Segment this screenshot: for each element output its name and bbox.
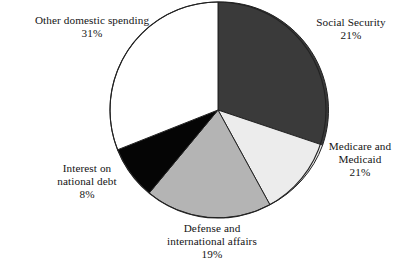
pie-label-defense-text-line2: international affairs xyxy=(136,235,288,248)
pie-label-medicare-medicaid-text-line1: Medicare and xyxy=(308,140,412,153)
pie-label-other-domestic-spending-text: Other domestic spending xyxy=(4,14,180,27)
pie-label-interest-national-debt-text-line2: national debt xyxy=(34,175,140,188)
pie-label-social-security: Social Security 21% xyxy=(292,16,410,42)
pie-label-defense-text-line1: Defense and xyxy=(136,222,288,235)
pie-label-interest-national-debt-text-line1: Interest on xyxy=(34,162,140,175)
pie-label-medicare-medicaid-text-line2: Medicaid xyxy=(308,153,412,166)
pie-chart-figure: Other domestic spending 31% Social Secur… xyxy=(0,0,414,276)
pie-label-social-security-percent: 21% xyxy=(292,29,410,42)
pie-label-interest-national-debt: Interest on national debt 8% xyxy=(34,162,140,201)
pie-label-other-domestic-spending-percent: 31% xyxy=(4,27,180,40)
pie-label-social-security-text: Social Security xyxy=(292,16,410,29)
pie-label-other-domestic-spending: Other domestic spending 31% xyxy=(4,14,180,40)
pie-label-interest-national-debt-percent: 8% xyxy=(34,188,140,201)
pie-label-defense-percent: 19% xyxy=(136,248,288,261)
pie-label-medicare-medicaid: Medicare and Medicaid 21% xyxy=(308,140,412,179)
pie-label-defense: Defense and international affairs 19% xyxy=(136,222,288,261)
pie-label-medicare-medicaid-percent: 21% xyxy=(308,166,412,179)
